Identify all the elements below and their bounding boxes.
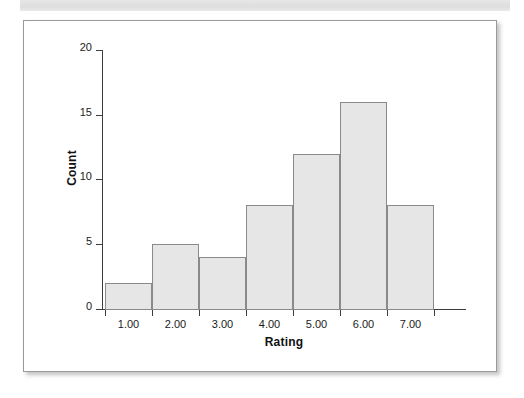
x-tick-label: 1.00 [118, 319, 139, 330]
y-tick-label: 5 [86, 236, 92, 247]
x-tickmark-4.5 [293, 310, 294, 316]
y-tick-20: 20 [96, 50, 102, 51]
bar-5[interactable] [293, 154, 340, 310]
y-tickmark [96, 179, 102, 180]
x-tickmark [293, 310, 294, 316]
x-tick-label: 2.00 [165, 319, 186, 330]
y-tickmark [96, 50, 102, 51]
x-tickmark [105, 310, 106, 316]
bar-7[interactable] [387, 205, 434, 310]
x-tick-label: 5.00 [306, 319, 327, 330]
x-tick-label: 4.00 [259, 319, 280, 330]
x-tickmark-6.5 [387, 310, 388, 316]
y-tickmark [96, 115, 102, 116]
histogram-plot: 0 5 10 15 20 [24, 21, 498, 373]
bar-2[interactable] [152, 244, 199, 310]
x-tickmark [387, 310, 388, 316]
y-tickmark [96, 309, 102, 310]
x-tickmark [246, 310, 247, 316]
figure-panel: 0 5 10 15 20 [23, 20, 497, 372]
bar-3[interactable] [199, 257, 246, 310]
x-tick-label: 7.00 [400, 319, 421, 330]
y-tick-5: 5 [96, 244, 102, 245]
x-tick-label: 3.00 [212, 319, 233, 330]
y-tick-label: 20 [80, 42, 92, 53]
top-banner-strip [20, 0, 510, 11]
y-tick-label: 0 [86, 301, 92, 312]
x-tickmark [199, 310, 200, 316]
x-tickmark-2.5 [199, 310, 200, 316]
y-axis-title: Count [65, 150, 79, 186]
y-tick-label: 15 [80, 107, 92, 118]
y-tick-0: 0 [96, 309, 102, 310]
y-tick-15: 15 [96, 115, 102, 116]
x-axis-title: Rating [102, 335, 466, 349]
y-tickmark [96, 244, 102, 245]
x-tickmark [434, 310, 435, 316]
x-tickmark [340, 310, 341, 316]
bar-1[interactable] [105, 283, 152, 310]
y-tick-10: 10 [96, 179, 102, 180]
bar-6[interactable] [340, 102, 387, 310]
x-tickmark [152, 310, 153, 316]
x-tickmark-7.5 [434, 310, 435, 316]
y-axis-line [102, 50, 103, 310]
x-tickmark-1.5 [152, 310, 153, 316]
x-tickmark-5.5 [340, 310, 341, 316]
bar-4[interactable] [246, 205, 293, 310]
x-tickmark-3.5 [246, 310, 247, 316]
y-tick-label: 10 [80, 171, 92, 182]
x-tick-label: 6.00 [353, 319, 374, 330]
x-tickmark-0.5 [105, 310, 106, 316]
